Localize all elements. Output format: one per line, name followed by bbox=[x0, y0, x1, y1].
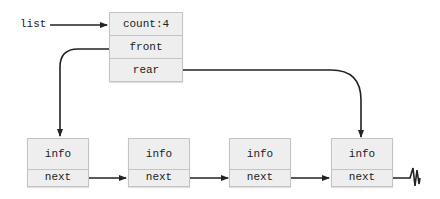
null-lightning-icon bbox=[389, 168, 420, 186]
node-info-field: info bbox=[28, 139, 88, 170]
node-next-field: next bbox=[129, 170, 189, 186]
node-info-field: info bbox=[332, 139, 392, 170]
list-node-1: info next bbox=[27, 138, 89, 187]
node-info-field: info bbox=[129, 139, 189, 170]
count-field: count:4 bbox=[110, 13, 182, 36]
list-node-4: info next bbox=[331, 138, 393, 187]
list-label: list bbox=[20, 18, 46, 30]
node-next-field: next bbox=[230, 170, 290, 186]
node-info-field: info bbox=[230, 139, 290, 170]
list-node-3: info next bbox=[229, 138, 291, 187]
rear-field: rear bbox=[110, 59, 182, 82]
queue-header-box: count:4 front rear bbox=[109, 12, 183, 82]
rear-pointer-arrow bbox=[175, 70, 361, 137]
front-pointer-arrow bbox=[60, 49, 114, 136]
node-next-field: next bbox=[332, 170, 392, 186]
front-field: front bbox=[110, 36, 182, 59]
list-node-2: info next bbox=[128, 138, 190, 187]
node-next-field: next bbox=[28, 170, 88, 186]
